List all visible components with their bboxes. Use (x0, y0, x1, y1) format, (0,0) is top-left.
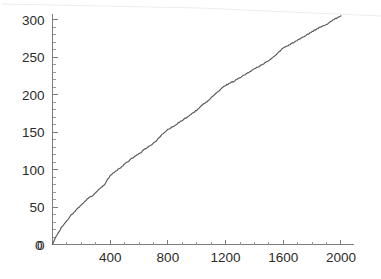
axes (53, 14, 354, 245)
data-series-curve (53, 16, 341, 245)
scan-line-artifact (2, 4, 381, 16)
y-tick-label: 100 (22, 163, 45, 178)
x-tick-label: 1600 (268, 250, 298, 265)
x-tick-label: 400 (99, 250, 122, 265)
y-tick-label: 150 (22, 125, 45, 140)
y-tick-label: 200 (22, 88, 45, 103)
y-tick-label: 250 (22, 50, 45, 65)
y-tick-label: 300 (22, 13, 45, 28)
y-axis-tick-labels: 050100150200250300 (22, 13, 45, 253)
x-tick-label: 0 (35, 238, 43, 253)
x-tick-label: 800 (157, 250, 180, 265)
x-tick-label: 1200 (211, 250, 241, 265)
y-tick-label: 50 (29, 200, 44, 215)
chart-plot: 050100150200250300 0400800120016002000 (0, 0, 381, 279)
tick-marks (53, 20, 341, 245)
chart-container: 050100150200250300 0400800120016002000 (0, 0, 381, 279)
x-tick-label: 2000 (326, 250, 356, 265)
x-axis-tick-labels: 0400800120016002000 (35, 238, 356, 265)
